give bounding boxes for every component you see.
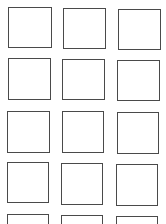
grid-box-r4-c2 — [116, 216, 158, 224]
grid-box-r3-c2 — [116, 164, 158, 206]
grid-box-r3-c1 — [61, 163, 103, 205]
grid-box-r0-c0 — [8, 7, 52, 48]
grid-box-r1-c2 — [117, 60, 160, 101]
grid-box-r2-c0 — [7, 111, 50, 153]
grid-box-r1-c1 — [62, 59, 105, 100]
grid-box-r0-c1 — [63, 8, 106, 49]
grid-box-r0-c2 — [118, 9, 161, 50]
grid-box-r4-c1 — [61, 215, 103, 224]
grid-box-r1-c0 — [8, 58, 51, 100]
grid-box-r2-c1 — [62, 111, 104, 153]
grid-box-r4-c0 — [7, 214, 49, 224]
grid-box-r2-c2 — [117, 112, 159, 154]
grid-box-r3-c0 — [7, 162, 49, 203]
